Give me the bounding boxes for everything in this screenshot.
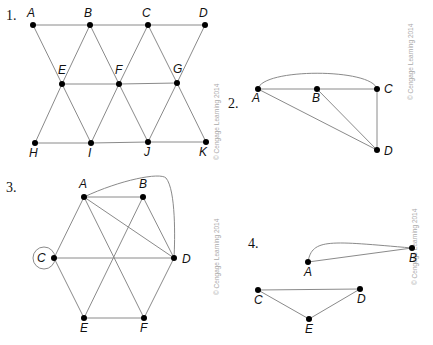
vertex-label-G: G [173,62,182,76]
copyright-text: © Cengage Learning 2014 [407,23,415,100]
vertex-label-K: K [199,145,208,159]
edge-C-F [119,25,148,84]
edge-C-E [258,290,309,319]
vertex-label-A: A [303,265,312,279]
vertex-label-D: D [182,252,191,266]
vertex-label-A: A [251,91,260,105]
vertex-C [374,86,380,92]
vertex-label-C: C [254,293,263,307]
edge-F-G [119,83,177,84]
vertex-label-E: E [305,322,314,336]
vertex-label-C: C [37,251,46,265]
vertex-label-D: D [384,144,393,158]
vertex-B [87,22,93,28]
vertex-label-C: C [142,6,151,20]
edge-A-D-curved [84,176,175,258]
copyright-text: © Cengage Learning 2014 [213,83,221,160]
vertex-label-F: F [115,63,123,77]
edge-I-F [91,84,119,143]
vertex-F [116,81,122,87]
vertex-label-D: D [199,6,208,20]
vertex-label-B: B [409,251,417,265]
vertex-label-C: C [384,82,393,96]
figure-number-2: 2. [228,96,239,111]
vertex-A [30,22,36,28]
edge-A-B [308,248,412,262]
vertex-G [174,80,180,86]
edge-B-D [143,197,174,258]
figure-number-1: 1. [6,8,17,23]
edge-C-D [258,289,360,290]
figure-number-4: 4. [248,236,259,251]
vertex-D [374,147,380,153]
vertex-label-A: A [78,177,87,191]
edge-I-J [91,142,148,143]
vertex-label-E: E [80,321,89,335]
copyright-text: © Cengage Learning 2014 [213,218,221,295]
edge-E-I [62,84,91,143]
vertex-label-A: A [26,6,35,20]
graph-figures: 1.© Cengage Learning 2014ABCDEFGHIJK2.© … [0,0,433,345]
vertex-label-B: B [84,6,92,20]
vertex-label-E: E [58,63,67,77]
vertex-B [140,194,146,200]
figure-number-3: 3. [6,180,17,195]
edge-E-H [35,84,62,143]
edge-D-F [144,258,174,318]
edge-F-J [119,84,148,142]
vertex-label-B: B [139,177,147,191]
vertex-E [59,81,65,87]
vertex-label-I: I [88,146,92,160]
vertex-A [81,194,87,200]
vertex-label-D: D [357,292,366,306]
edge-G-K [177,83,206,142]
vertex-label-B: B [312,91,320,105]
vertex-label-J: J [143,145,151,159]
edge-A-B-curved [308,243,412,262]
edge-J-G [148,83,177,142]
edge-A-C [54,197,84,258]
edge-B-D [317,89,377,150]
edge-C-E [54,258,84,318]
vertex-C [51,255,57,261]
edge-D-E [309,289,360,319]
vertex-label-H: H [29,146,38,160]
vertex-D [171,255,177,261]
vertex-D [202,22,208,28]
vertex-C [145,22,151,28]
edge-A-D [84,197,174,258]
edge-B-E [62,25,90,84]
vertex-label-F: F [140,321,148,335]
